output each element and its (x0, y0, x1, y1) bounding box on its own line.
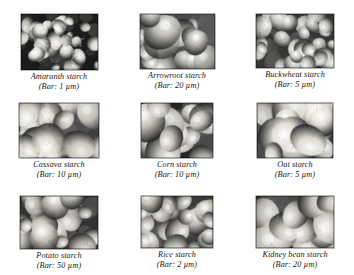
panel-grid: SciMATAmaranth starch(Bar: 1 µm)Arrowroo… (0, 0, 354, 275)
caption-scalebar-cassava: (Bar: 10 µm) (2, 170, 116, 180)
micrograph-amaranth: SciMAT (21, 14, 98, 70)
panel-arrowroot: Arrowroot starch(Bar: 20 µm) (118, 0, 236, 92)
panel-oat: Oat starch(Bar: 5 µm) (236, 92, 354, 182)
panel-potato: Potato starch(Bar: 50 µm) (0, 182, 118, 275)
caption-amaranth: Amaranth starch(Bar: 1 µm) (2, 72, 116, 92)
caption-cassava: Cassava starch(Bar: 10 µm) (2, 160, 116, 180)
caption-kidney-bean: Kidney bean starch(Bar: 20 µm) (238, 250, 352, 270)
panel-rice: Rice starch(Bar: 2 µm) (118, 182, 236, 275)
caption-scalebar-amaranth: (Bar: 1 µm) (2, 82, 116, 92)
micrograph-cassava (19, 103, 99, 158)
caption-title-buckwheat: Buckwheat starch (265, 70, 325, 79)
caption-scalebar-rice: (Bar: 2 µm) (120, 260, 234, 270)
caption-title-rice: Rice starch (158, 250, 196, 259)
caption-title-corn: Corn starch (157, 160, 197, 169)
caption-buckwheat: Buckwheat starch(Bar: 5 µm) (238, 70, 352, 90)
caption-scalebar-oat: (Bar: 5 µm) (238, 170, 352, 180)
caption-title-oat: Oat starch (277, 160, 313, 169)
micrograph-buckwheat (256, 14, 334, 68)
caption-title-kidney-bean: Kidney bean starch (262, 250, 327, 259)
caption-rice: Rice starch(Bar: 2 µm) (120, 250, 234, 270)
micrograph-kidney-bean (256, 196, 334, 248)
panel-buckwheat: Buckwheat starch(Bar: 5 µm) (236, 0, 354, 92)
caption-scalebar-kidney-bean: (Bar: 20 µm) (238, 260, 352, 270)
starch-sem-figure: SciMATAmaranth starch(Bar: 1 µm)Arrowroo… (0, 0, 354, 275)
micrograph-arrowroot (140, 14, 215, 69)
panel-corn: Corn starch(Bar: 10 µm) (118, 92, 236, 182)
caption-title-arrowroot: Arrowroot starch (148, 71, 206, 80)
micrograph-potato (20, 196, 98, 249)
caption-oat: Oat starch(Bar: 5 µm) (238, 160, 352, 180)
caption-title-potato: Potato starch (36, 251, 81, 260)
micrograph-rice (141, 196, 213, 248)
caption-corn: Corn starch(Bar: 10 µm) (120, 160, 234, 180)
caption-title-cassava: Cassava starch (33, 160, 84, 169)
micrograph-corn (141, 103, 213, 158)
micrograph-oat (257, 103, 333, 158)
panel-kidney-bean: Kidney bean starch(Bar: 20 µm) (236, 182, 354, 275)
caption-potato: Potato starch(Bar: 50 µm) (2, 251, 116, 271)
panel-amaranth: SciMATAmaranth starch(Bar: 1 µm) (0, 0, 118, 92)
panel-cassava: Cassava starch(Bar: 10 µm) (0, 92, 118, 182)
caption-scalebar-potato: (Bar: 50 µm) (2, 261, 116, 271)
caption-scalebar-corn: (Bar: 10 µm) (120, 170, 234, 180)
caption-arrowroot: Arrowroot starch(Bar: 20 µm) (120, 71, 234, 91)
caption-scalebar-buckwheat: (Bar: 5 µm) (238, 80, 352, 90)
caption-scalebar-arrowroot: (Bar: 20 µm) (120, 81, 234, 91)
caption-title-amaranth: Amaranth starch (31, 72, 87, 81)
